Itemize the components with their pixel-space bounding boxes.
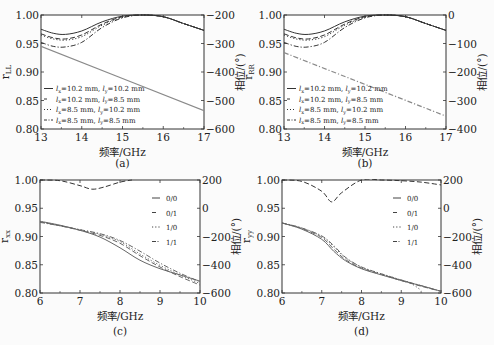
legend-item: 0/0	[166, 195, 177, 203]
x-axis-label: 频率/GHz	[338, 310, 385, 322]
y-tick-label: 0.80	[15, 287, 38, 299]
panel-b: 13141516170.800.850.900.951.00−400−300−2…	[242, 9, 488, 169]
y-right-tick-label: −200	[448, 66, 477, 78]
figure: 13141516170.800.850.900.951.00−600−500−4…	[0, 0, 494, 345]
y-tick-label: 0.90	[259, 66, 282, 78]
x-tick-label: 15	[358, 131, 371, 143]
legend-item: 0/0	[407, 195, 418, 203]
legend-item: 1/1	[407, 239, 418, 247]
legend-item: 0/1	[407, 210, 418, 218]
y-tick-label: 0.90	[257, 231, 280, 243]
y-right-tick-label: −100	[448, 38, 477, 50]
panel-caption: (c)	[113, 325, 127, 337]
y-right-tick-label: −200	[206, 9, 235, 21]
panel-d: 6789100.800.850.900.951.00−600−400−20002…	[240, 174, 483, 337]
y-right-tick-label: 0	[202, 202, 209, 214]
y-right-tick-label: −600	[206, 123, 235, 135]
y-tick-label: 0.80	[257, 287, 280, 299]
x-tick-label: 14	[318, 131, 332, 143]
y-axis-label: ryy	[240, 230, 254, 243]
y-right-tick-label: −400	[206, 66, 235, 78]
x-tick-label: 16	[399, 131, 413, 143]
y-right-tick-label: −400	[202, 259, 231, 271]
panel-caption: (b)	[358, 157, 373, 169]
x-tick-label: 15	[116, 131, 129, 143]
y-tick-label: 1.00	[16, 9, 39, 21]
y-axis-label: rxx	[0, 230, 12, 243]
legend-item: 1/0	[166, 224, 177, 232]
y-tick-label: 0.85	[257, 259, 280, 271]
y-tick-label: 0.90	[15, 231, 38, 243]
y-tick-label: 0.95	[257, 202, 280, 214]
y-right-tick-label: 200	[443, 174, 463, 186]
y-right-axis-label: 相位/(°)	[234, 54, 246, 91]
y-right-tick-label: 0	[448, 9, 455, 21]
x-tick-label: 9	[157, 295, 164, 307]
y-tick-label: 0.95	[259, 38, 282, 50]
x-axis-label: 频率/GHz	[97, 310, 144, 322]
y-tick-label: 0.95	[15, 202, 38, 214]
y-tick-label: 0.80	[16, 123, 39, 135]
y-tick-label: 0.90	[16, 66, 39, 78]
x-tick-label: 8	[117, 295, 124, 307]
x-tick-label: 8	[358, 295, 365, 307]
y-right-tick-label: −400	[448, 123, 477, 135]
y-right-tick-label: −500	[206, 95, 235, 107]
y-right-tick-label: 200	[202, 174, 222, 186]
y-right-tick-label: −300	[206, 38, 235, 50]
y-right-axis-label: 相位/(°)	[230, 218, 242, 255]
y-tick-label: 0.80	[259, 123, 282, 135]
y-tick-label: 0.85	[259, 95, 282, 107]
y-right-tick-label: −600	[202, 287, 231, 299]
y-tick-label: 0.85	[15, 259, 38, 271]
panel-caption: (d)	[354, 325, 369, 337]
x-tick-label: 7	[77, 295, 84, 307]
y-right-axis-label: 相位/(°)	[471, 218, 483, 255]
x-tick-label: 14	[75, 131, 89, 143]
x-tick-label: 9	[398, 295, 405, 307]
y-right-tick-label: 0	[443, 202, 450, 214]
x-tick-label: 7	[318, 295, 325, 307]
legend-item: 1/0	[407, 224, 418, 232]
panel-c: 6789100.800.850.900.951.00−600−400−20002…	[0, 174, 242, 337]
y-tick-label: 1.00	[15, 174, 38, 186]
y-right-tick-label: −400	[443, 259, 472, 271]
panel-a: 13141516170.800.850.900.951.00−600−500−4…	[0, 9, 246, 169]
y-right-tick-label: −200	[202, 231, 231, 243]
y-right-tick-label: −600	[443, 287, 472, 299]
y-tick-label: 0.85	[16, 95, 39, 107]
y-tick-label: 1.00	[257, 174, 280, 186]
y-tick-label: 0.95	[16, 38, 39, 50]
y-right-tick-label: −300	[448, 95, 477, 107]
y-tick-label: 1.00	[259, 9, 282, 21]
panel-caption: (a)	[115, 157, 129, 169]
x-tick-label: 16	[157, 131, 171, 143]
y-right-tick-label: −200	[443, 231, 472, 243]
legend-item: 1/1	[166, 239, 177, 247]
legend-item: 0/1	[166, 210, 177, 218]
y-right-axis-label: 相位/(°)	[476, 54, 488, 91]
y-axis-label: rLL	[0, 64, 13, 79]
